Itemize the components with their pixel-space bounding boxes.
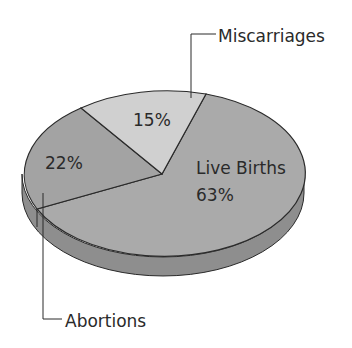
miscarriages-callout-label: Miscarriages [218,26,325,46]
abortions-callout-label: Abortions [65,311,146,331]
live-births-name-label: Live Births [196,158,286,178]
pie-chart: Miscarriages Abortions 15% 22% Live Birt… [0,0,352,348]
miscarriages-leader-line [191,34,216,98]
live-births-percent-label: 63% [196,185,234,205]
abortions-percent-label: 22% [45,153,83,173]
miscarriages-percent-label: 15% [133,110,171,130]
